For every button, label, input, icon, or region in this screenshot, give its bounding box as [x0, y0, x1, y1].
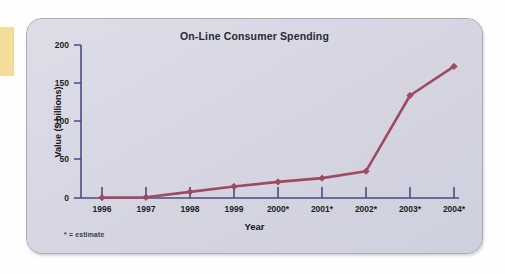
line-chart-plot: [27, 19, 482, 253]
data-point-1996: [99, 194, 105, 200]
y-tick-label-150: 150: [33, 78, 69, 88]
data-point-1998: [187, 189, 193, 195]
x-tick-label-1998: 1998: [168, 204, 212, 214]
data-point-2001: [319, 175, 325, 181]
data-series-on-line-spending: [99, 63, 457, 201]
estimate-footnote: * = estimate: [64, 231, 104, 238]
x-tick-label-2004: 2004*: [432, 204, 476, 214]
data-point-2000: [275, 179, 281, 185]
y-tick-label-100: 100: [33, 116, 69, 126]
chart-panel: On-Line Consumer Spending: [26, 18, 483, 254]
x-tick-label-2000: 2000*: [256, 204, 300, 214]
x-tick-label-2003: 2003*: [388, 204, 432, 214]
y-tick-label-0: 0: [33, 193, 69, 203]
screenshot-root: On-Line Consumer Spending: [0, 0, 505, 274]
series-line: [102, 66, 454, 197]
x-tick-label-1997: 1997: [124, 204, 168, 214]
yellow-marker-strip: [0, 27, 14, 76]
y-axis-title: Value ($ billions): [53, 67, 63, 177]
y-tick-label-50: 50: [33, 154, 69, 164]
chart-panel-inner: On-Line Consumer Spending: [27, 19, 482, 253]
x-tick-label-1999: 1999: [212, 204, 256, 214]
x-tick-label-1996: 1996: [80, 204, 124, 214]
x-tick-label-2001: 2001*: [300, 204, 344, 214]
y-tick-label-200: 200: [33, 40, 69, 50]
x-tick-label-2002: 2002*: [344, 204, 388, 214]
data-point-1999: [231, 183, 237, 189]
data-point-1997: [143, 194, 149, 200]
